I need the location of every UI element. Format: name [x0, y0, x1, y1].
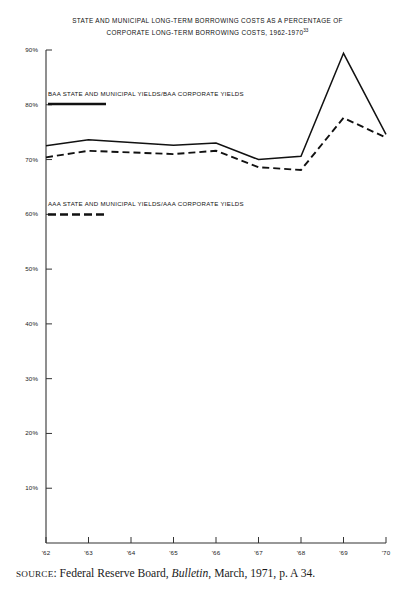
x-axis-tick-label: '70	[375, 549, 397, 556]
plot-svg	[0, 0, 411, 592]
plot-area	[0, 0, 411, 592]
y-axis-tick-label: 90%	[12, 46, 38, 53]
x-axis-tick-label: '65	[163, 549, 185, 556]
x-axis-tick-label: '66	[205, 549, 227, 556]
y-axis-tick-label: 80%	[12, 101, 38, 108]
chart-figure: STATE AND MUNICIPAL LONG-TERM BORROWING …	[0, 0, 411, 592]
x-axis-tick-label: '69	[333, 549, 355, 556]
y-axis-tick-label: 40%	[12, 320, 38, 327]
legend-entry-aaa: AAA STATE AND MUNICIPAL YIELDS/AAA CORPO…	[48, 200, 244, 217]
source-note-separator: : Federal Reserve Board,	[53, 567, 171, 580]
series-line-aaa	[46, 118, 386, 170]
legend-entry-baa: BAA STATE AND MUNICIPAL YIELDS/BAA CORPO…	[48, 90, 244, 106]
source-note: SOURCE: Federal Reserve Board, Bulletin,…	[16, 567, 315, 580]
source-note-suffix: , March, 1971, p. A 34.	[208, 567, 315, 580]
y-axis-tick-label: 30%	[12, 375, 38, 382]
x-axis-tick-label: '62	[35, 549, 57, 556]
x-axis-tick-label: '68	[290, 549, 312, 556]
source-note-prefix: SOURCE	[16, 569, 53, 579]
x-axis-tick-label: '63	[78, 549, 100, 556]
y-axis-tick-label: 10%	[12, 484, 38, 491]
y-axis-tick-label: 70%	[12, 156, 38, 163]
legend-swatch-baa-solid	[48, 102, 108, 106]
y-axis-tick-label: 20%	[12, 429, 38, 436]
legend-label-baa: BAA STATE AND MUNICIPAL YIELDS/BAA CORPO…	[48, 90, 244, 97]
y-axis-ticks	[46, 50, 52, 488]
legend-label-aaa: AAA STATE AND MUNICIPAL YIELDS/AAA CORPO…	[48, 200, 244, 207]
x-axis-tick-label: '67	[248, 549, 270, 556]
x-axis-tick-label: '64	[120, 549, 142, 556]
source-note-publication: Bulletin	[172, 567, 209, 580]
y-axis-tick-label: 60%	[12, 210, 38, 217]
legend-swatch-aaa-dashed	[48, 212, 108, 217]
series-line-baa	[46, 53, 386, 159]
x-axis-ticks	[46, 537, 386, 543]
y-axis-tick-label: 50%	[12, 265, 38, 272]
